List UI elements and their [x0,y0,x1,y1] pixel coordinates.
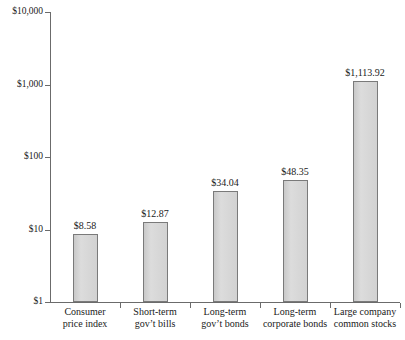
y-axis-tick-label: $10 [0,225,43,235]
y-axis-tick-label: $100 [0,152,43,162]
bar [73,234,98,302]
category-label-line: Large company [320,306,405,318]
bar [213,191,238,302]
x-axis-category-label: Large companycommon stocks [320,306,405,329]
bar [353,81,378,302]
category-label-line: common stocks [320,318,405,330]
bar-value-label: $48.35 [250,167,340,177]
y-axis-tick-label: $1,000 [0,80,43,90]
bar-value-label: $12.87 [110,209,200,219]
y-axis-tick [45,157,51,158]
y-axis-tick [45,85,51,86]
y-axis-tick [45,302,51,303]
bar-value-label: $8.58 [40,221,130,231]
bar-value-label: $1,113.92 [320,68,405,78]
y-axis-tick [45,12,51,13]
bar [283,180,308,302]
bar [143,222,168,302]
x-axis-line [50,302,400,303]
y-axis-tick-label: $10,000 [0,7,43,17]
log-scale-bar-chart: $10,000$1,000$100$10$1 $8.58$12.87$34.04… [0,0,405,340]
y-axis-tick-label: $1 [0,297,43,307]
bar-value-label: $34.04 [180,178,270,188]
